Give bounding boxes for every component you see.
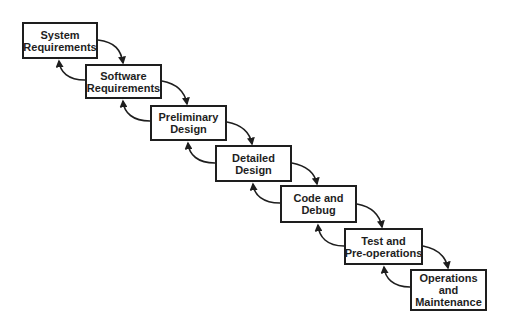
forward-arrow-4 [292,163,317,184]
stage-label: Design [170,123,207,135]
stage-label: and [439,284,459,296]
stage-label: Detailed [232,152,275,164]
stage-detailed-design: Detailed Design [215,145,292,182]
stage-label: Test and [361,235,405,247]
forward-arrow-2 [162,81,187,104]
stage-label: Maintenance [415,296,482,308]
stage-preliminary-design: Preliminary Design [150,105,227,141]
feedback-arrow-2 [123,101,150,121]
stage-system-requirements: System Requirements [22,22,98,59]
stage-label: Software [100,70,146,82]
forward-arrow-5 [357,204,382,227]
stage-label: Operations [419,272,477,284]
feedback-arrow-4 [253,184,280,203]
feedback-arrow-3 [188,143,215,163]
stage-software-requirements: Software Requirements [85,64,162,99]
forward-arrow-1 [98,40,123,63]
stage-code-and-debug: Code and Debug [280,185,357,223]
waterfall-diagram: System Requirements Software Requirement… [0,0,517,317]
stage-test-and-pre-operations: Test and Pre-operations [344,228,423,265]
stage-label: Debug [301,204,335,216]
forward-arrow-3 [227,122,252,144]
stage-label: Code and [293,192,343,204]
stage-operations-and-maintenance: Operations and Maintenance [410,269,487,311]
stage-label: Preliminary [159,111,219,123]
forward-arrow-6 [423,246,448,268]
stage-label: System [40,29,79,41]
stage-label: Pre-operations [345,247,423,259]
stage-label: Design [235,164,272,176]
stage-label: Requirements [87,82,160,94]
feedback-arrow-5 [318,225,344,246]
feedback-arrow-6 [384,267,410,287]
stage-label: Requirements [23,41,96,53]
feedback-arrow-1 [59,61,85,80]
